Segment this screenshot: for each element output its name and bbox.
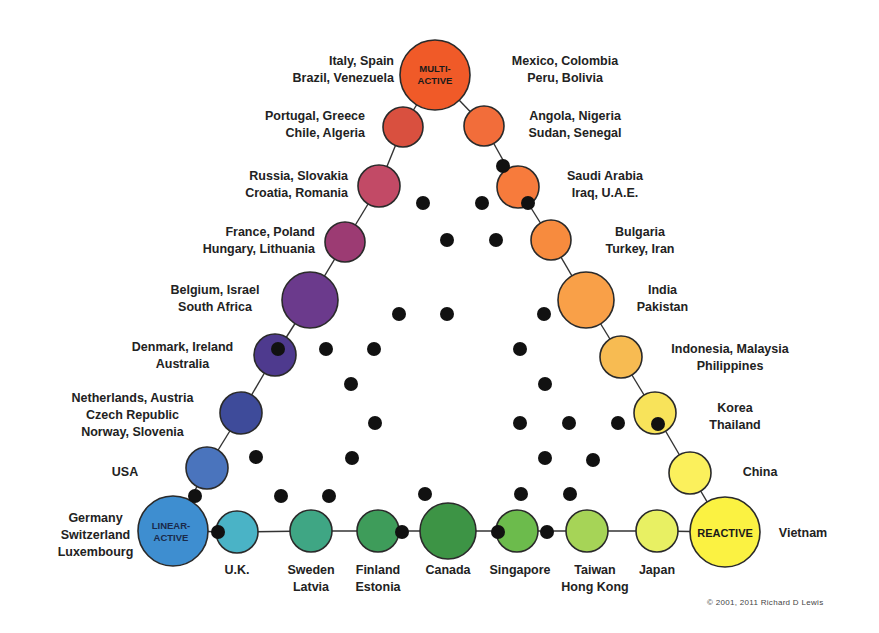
label-line: Croatia, Romania: [245, 185, 348, 202]
label-sweden: SwedenLatvia: [281, 562, 341, 596]
label-usa: USA: [100, 464, 150, 481]
label-russia: Russia, SlovakiaCroatia, Romania: [245, 168, 348, 202]
interior-dot: [513, 416, 527, 430]
label-canada: Canada: [418, 562, 478, 579]
interior-dot: [540, 525, 554, 539]
interior-dot: [392, 307, 406, 321]
label-denmark: Denmark, IrelandAustralia: [115, 339, 250, 373]
interior-dot: [367, 342, 381, 356]
node-sweden: [290, 510, 332, 552]
label-line: Pakistan: [625, 299, 700, 316]
label-line: Bulgaria: [600, 224, 680, 241]
interior-dot: [274, 489, 288, 503]
interior-dot: [188, 489, 202, 503]
node-russia: [358, 165, 400, 207]
label-line: France, Poland: [203, 224, 315, 241]
interior-dot: [211, 525, 225, 539]
linear-active-label-line1: LINEAR-: [152, 520, 191, 531]
node-portugal: [383, 107, 423, 147]
label-saudi: Saudi ArabiaIraq, U.A.E.: [555, 168, 655, 202]
multi-active-label-line1: MULTI-: [419, 63, 450, 74]
interior-dot: [344, 377, 358, 391]
label-korea: KoreaThailand: [695, 400, 775, 434]
node-china: [669, 452, 711, 494]
node-indonesia: [600, 336, 642, 378]
node-france: [325, 222, 365, 262]
node-canada: [420, 503, 476, 559]
interior-dot: [611, 416, 625, 430]
label-line: Germany: [48, 510, 143, 527]
label-line: Canada: [418, 562, 478, 579]
label-line: Portugal, Greece: [265, 108, 365, 125]
interior-dot: [538, 451, 552, 465]
label-line: Estonia: [348, 579, 408, 596]
label-line: India: [625, 282, 700, 299]
interior-dot: [440, 233, 454, 247]
interior-dot: [538, 377, 552, 391]
label-mexico: Mexico, ColombiaPeru, Bolivia: [500, 53, 630, 87]
label-japan: Japan: [627, 562, 687, 579]
node-belgium: [282, 272, 338, 328]
node-japan: [636, 510, 678, 552]
reactive-label: REACTIVE: [697, 527, 753, 539]
copyright-notice: © 2001, 2011 Richard D Lewis: [707, 598, 823, 607]
label-angola: Angola, NigeriaSudan, Senegal: [515, 108, 635, 142]
label-line: Hungary, Lithuania: [203, 241, 315, 258]
interior-dot: [249, 450, 263, 464]
label-belgium: Belgium, IsraelSouth Africa: [160, 282, 270, 316]
label-line: Thailand: [695, 417, 775, 434]
label-line: Norway, Slovenia: [60, 424, 205, 441]
interior-dot: [521, 196, 535, 210]
interior-dot: [475, 196, 489, 210]
label-line: Brazil, Venezuela: [293, 70, 394, 87]
label-line: Luxembourg: [48, 544, 143, 561]
interior-dot: [440, 307, 454, 321]
node-finland: [357, 510, 399, 552]
node-bulgaria: [531, 220, 571, 260]
interior-dot: [418, 487, 432, 501]
label-line: Belgium, Israel: [160, 282, 270, 299]
label-line: U.K.: [217, 562, 257, 579]
label-line: Netherlands, Austria: [60, 390, 205, 407]
label-singapore: Singapore: [482, 562, 558, 579]
label-line: Philippines: [660, 358, 800, 375]
label-line: Italy, Spain: [293, 53, 394, 70]
label-line: Finland: [348, 562, 408, 579]
node-india: [558, 272, 614, 328]
node-linear: [138, 496, 208, 566]
label-germany: GermanySwitzerlandLuxembourg: [48, 510, 143, 561]
label-line: USA: [100, 464, 150, 481]
label-bulgaria: BulgariaTurkey, Iran: [600, 224, 680, 258]
label-line: Singapore: [482, 562, 558, 579]
interior-dot: [563, 487, 577, 501]
interior-dot: [586, 453, 600, 467]
label-line: Turkey, Iran: [600, 241, 680, 258]
label-line: Iraq, U.A.E.: [555, 185, 655, 202]
label-line: Denmark, Ireland: [115, 339, 250, 356]
label-line: Russia, Slovakia: [245, 168, 348, 185]
label-uk: U.K.: [217, 562, 257, 579]
label-vietnam: Vietnam: [768, 525, 838, 542]
label-indonesia: Indonesia, MalaysiaPhilippines: [660, 341, 800, 375]
label-line: Sweden: [281, 562, 341, 579]
label-netherlands: Netherlands, AustriaCzech RepublicNorway…: [60, 390, 205, 441]
node-netherlands: [220, 392, 262, 434]
label-line: China: [730, 464, 790, 481]
interior-dot: [345, 451, 359, 465]
label-line: Switzerland: [48, 527, 143, 544]
label-line: Korea: [695, 400, 775, 417]
interior-dot: [491, 525, 505, 539]
linear-active-label-line2: ACTIVE: [154, 532, 189, 543]
interior-dot: [537, 307, 551, 321]
interior-dot: [496, 159, 510, 173]
interior-dot: [416, 196, 430, 210]
label-line: Indonesia, Malaysia: [660, 341, 800, 358]
label-france: France, PolandHungary, Lithuania: [203, 224, 315, 258]
interior-dot: [319, 342, 333, 356]
interior-dot: [271, 342, 285, 356]
label-line: Angola, Nigeria: [515, 108, 635, 125]
interior-dot: [651, 417, 665, 431]
label-line: Mexico, Colombia: [500, 53, 630, 70]
node-usa: [186, 447, 228, 489]
interior-dot: [562, 416, 576, 430]
